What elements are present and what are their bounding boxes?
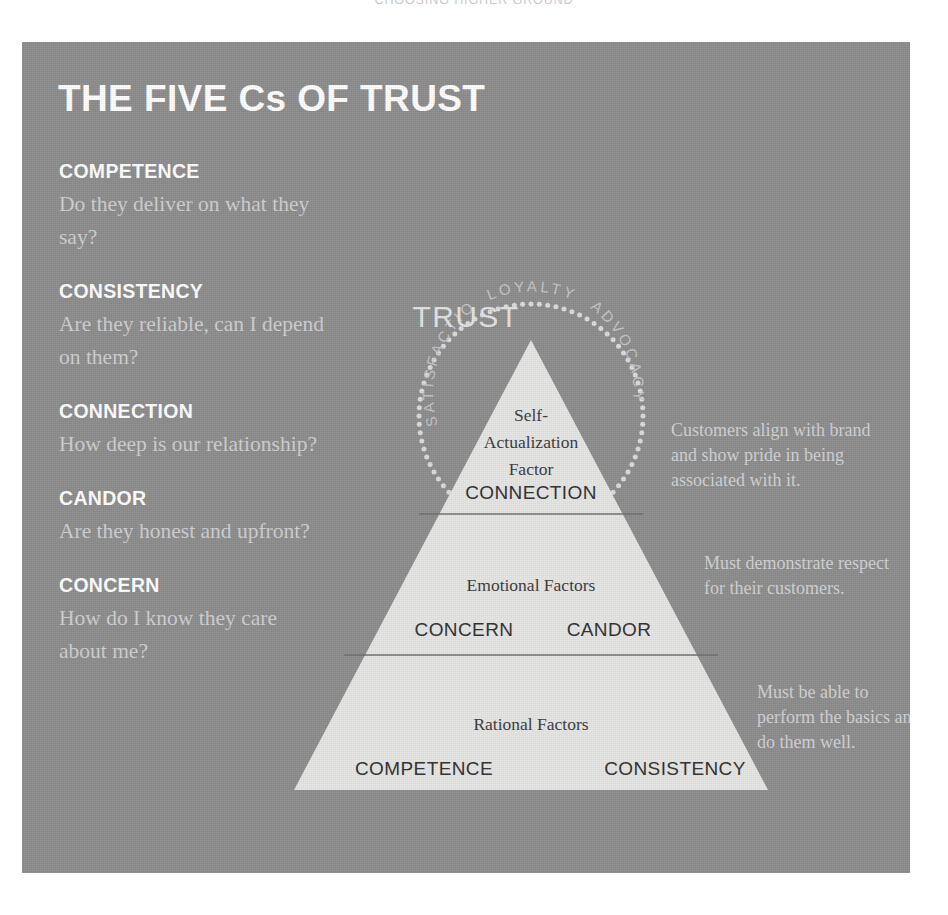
- c-term-connection: CONNECTION: [59, 400, 359, 423]
- tier1-factor-line-3: Factor: [509, 459, 554, 479]
- page-running-header: CHOOSING HIGHER GROUND: [0, 0, 948, 7]
- pyramid-item-competence: COMPETENCE: [355, 758, 493, 779]
- tier1-factor-line-1: Self-: [514, 405, 548, 425]
- tier3-factor-label: Rational Factors: [473, 714, 588, 734]
- list-item: COMPETENCE Do they deliver on what they …: [59, 160, 359, 254]
- annotation-emotional: Must demonstrate respect for their custo…: [704, 551, 894, 601]
- list-item: CONCERN How do I know they care about me…: [59, 574, 359, 668]
- pyramid-item-concern: CONCERN: [415, 619, 514, 640]
- tier1-factor-line-2: Actualization: [484, 432, 579, 452]
- c-term-concern: CONCERN: [59, 574, 359, 597]
- five-cs-of-trust-panel: THE FIVE Cs OF TRUST COMPETENCE Do they …: [22, 42, 910, 873]
- pyramid-item-consistency: CONSISTENCY: [604, 758, 746, 779]
- trust-center-label: TRUST: [22, 300, 910, 334]
- c-desc-connection: How deep is our relationship?: [59, 428, 329, 461]
- c-term-competence: COMPETENCE: [59, 160, 359, 183]
- c-term-candor: CANDOR: [59, 487, 359, 510]
- pyramid-item-connection: CONNECTION: [465, 482, 597, 503]
- list-item: CANDOR Are they honest and upfront?: [59, 487, 359, 548]
- c-desc-competence: Do they deliver on what they say?: [59, 188, 329, 254]
- page-title: THE FIVE Cs OF TRUST: [58, 78, 485, 120]
- annotation-connection: Customers align with brand and show prid…: [671, 418, 886, 493]
- annotation-rational: Must be able to perform the basics and d…: [757, 680, 910, 755]
- c-desc-concern: How do I know they care about me?: [59, 602, 329, 668]
- c-desc-candor: Are they honest and upfront?: [59, 515, 329, 548]
- five-cs-list: COMPETENCE Do they deliver on what they …: [59, 160, 359, 694]
- pyramid-item-candor: CANDOR: [567, 619, 652, 640]
- tier2-factor-label: Emotional Factors: [467, 575, 596, 595]
- list-item: CONNECTION How deep is our relationship?: [59, 400, 359, 461]
